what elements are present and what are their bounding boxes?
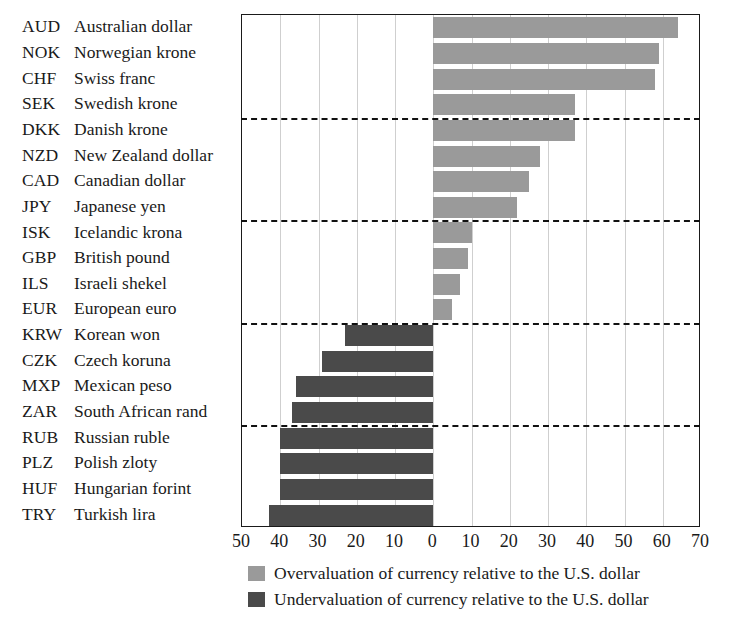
- bar-row: [242, 143, 699, 169]
- x-axis-tick-label: 50: [232, 529, 250, 553]
- bar-overvalued: [433, 43, 659, 64]
- category-label-row: SEKSwedish krone: [0, 91, 232, 117]
- x-axis-tick-label: 60: [653, 529, 671, 553]
- currency-name: Swiss franc: [74, 68, 155, 89]
- category-label-row: KRWKorean won: [0, 322, 232, 348]
- legend-label: Overvaluation of currency relative to th…: [274, 563, 640, 584]
- currency-code: SEK: [0, 93, 74, 114]
- bar-row: [242, 246, 699, 272]
- bar-undervalued: [322, 351, 433, 372]
- bar-overvalued: [433, 299, 452, 320]
- currency-name: Hungarian forint: [74, 478, 191, 499]
- currency-code: TRY: [0, 504, 74, 525]
- currency-name: Russian ruble: [74, 427, 170, 448]
- currency-name: Israeli shekel: [74, 273, 167, 294]
- x-axis-tick-label: 40: [576, 529, 594, 553]
- currency-code: GBP: [0, 247, 74, 268]
- legend-item: Overvaluation of currency relative to th…: [248, 560, 718, 586]
- bar-row: [242, 66, 699, 92]
- bar-row: [242, 400, 699, 426]
- category-label-row: AUDAustralian dollar: [0, 14, 232, 40]
- bar-row: [242, 92, 699, 118]
- bar-row: [242, 41, 699, 67]
- currency-code: ISK: [0, 222, 74, 243]
- legend-item: Undervaluation of currency relative to t…: [248, 586, 718, 612]
- bar-overvalued: [433, 17, 678, 38]
- currency-code: NOK: [0, 42, 74, 63]
- bar-row: [242, 477, 699, 503]
- x-axis-tick-label: 50: [615, 529, 633, 553]
- category-label-column: AUDAustralian dollarNOKNorwegian kroneCH…: [0, 14, 232, 527]
- currency-name: Polish zloty: [74, 452, 157, 473]
- currency-valuation-chart: AUDAustralian dollarNOKNorwegian kroneCH…: [0, 0, 732, 633]
- legend-swatch-undervalued-icon: [248, 592, 265, 607]
- group-separator: [241, 323, 700, 325]
- bar-overvalued: [433, 222, 471, 243]
- currency-code: ZAR: [0, 401, 74, 422]
- category-label-row: HUFHungarian forint: [0, 476, 232, 502]
- category-label-row: ILSIsraeli shekel: [0, 271, 232, 297]
- x-axis-tick-label: 0: [428, 529, 437, 553]
- bar-row: [242, 15, 699, 41]
- currency-name: Czech koruna: [74, 350, 171, 371]
- bar-row: [242, 272, 699, 298]
- bar-overvalued: [433, 69, 655, 90]
- bar-row: [242, 374, 699, 400]
- bar-row: [242, 195, 699, 221]
- category-label-row: JPYJapanese yen: [0, 194, 232, 220]
- currency-name: Mexican peso: [74, 375, 172, 396]
- bar-row: [242, 348, 699, 374]
- currency-code: EUR: [0, 298, 74, 319]
- category-label-row: MXPMexican peso: [0, 373, 232, 399]
- currency-code: AUD: [0, 16, 74, 37]
- currency-name: Icelandic krona: [74, 222, 182, 243]
- currency-name: Swedish krone: [74, 93, 178, 114]
- category-label-row: PLZPolish zloty: [0, 450, 232, 476]
- bar-overvalued: [433, 197, 517, 218]
- category-label-row: CZKCzech koruna: [0, 347, 232, 373]
- currency-code: CZK: [0, 350, 74, 371]
- currency-code: HUF: [0, 478, 74, 499]
- legend-label: Undervaluation of currency relative to t…: [274, 589, 649, 610]
- category-label-row: GBPBritish pound: [0, 245, 232, 271]
- bar-overvalued: [433, 248, 467, 269]
- bar-undervalued: [280, 453, 433, 474]
- bar-row: [242, 425, 699, 451]
- bar-overvalued: [433, 94, 575, 115]
- x-axis-tick-label: 10: [385, 529, 403, 553]
- category-label-row: CHFSwiss franc: [0, 65, 232, 91]
- bar-overvalued: [433, 146, 540, 167]
- category-label-row: NZDNew Zealand dollar: [0, 142, 232, 168]
- bar-overvalued: [433, 171, 529, 192]
- bar-row: [242, 502, 699, 528]
- currency-name: New Zealand dollar: [74, 145, 213, 166]
- bar-undervalued: [280, 479, 433, 500]
- x-axis-tick-label: 20: [347, 529, 365, 553]
- chart-legend: Overvaluation of currency relative to th…: [248, 560, 718, 612]
- currency-code: JPY: [0, 196, 74, 217]
- currency-code: ILS: [0, 273, 74, 294]
- currency-name: British pound: [74, 247, 170, 268]
- currency-name: Danish krone: [74, 119, 168, 140]
- category-label-row: EUREuropean euro: [0, 296, 232, 322]
- bar-overvalued: [433, 274, 460, 295]
- currency-code: RUB: [0, 427, 74, 448]
- bar-row: [242, 323, 699, 349]
- currency-code: MXP: [0, 375, 74, 396]
- category-label-row: RUBRussian ruble: [0, 424, 232, 450]
- currency-name: Japanese yen: [74, 196, 166, 217]
- currency-name: Norwegian krone: [74, 42, 196, 63]
- category-label-row: ZARSouth African rand: [0, 399, 232, 425]
- currency-name: Korean won: [74, 324, 160, 345]
- group-separator: [241, 118, 700, 120]
- currency-name: Turkish lira: [74, 504, 156, 525]
- x-axis-tick-label: 20: [500, 529, 518, 553]
- currency-name: Australian dollar: [74, 16, 192, 37]
- bar-undervalued: [345, 325, 433, 346]
- currency-code: KRW: [0, 324, 74, 345]
- currency-name: Canadian dollar: [74, 170, 185, 191]
- bar-row: [242, 220, 699, 246]
- bar-undervalued: [280, 428, 433, 449]
- bar-row: [242, 118, 699, 144]
- x-axis-tick-label: 30: [538, 529, 556, 553]
